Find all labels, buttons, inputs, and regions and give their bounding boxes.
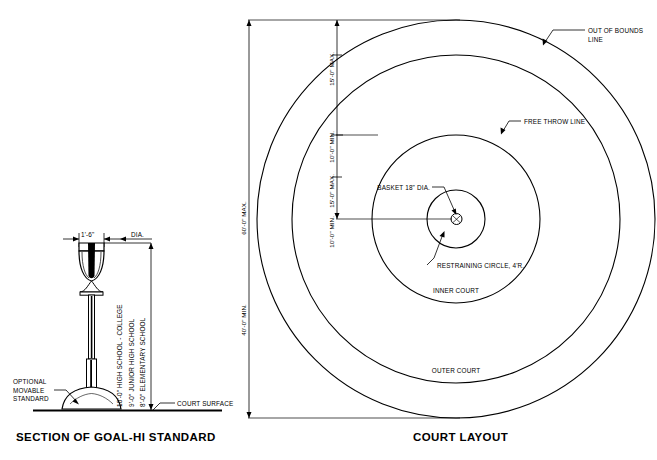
- court-extension-lines: [248, 20, 460, 418]
- free-throw-label: FREE THROW LINE: [524, 118, 585, 125]
- section-caption: SECTION OF GOAL-HI STANDARD: [16, 431, 216, 443]
- inner-court-label: INNER COURT: [433, 287, 479, 294]
- free-throw-leader: [503, 121, 521, 131]
- court-layout-plan: 60'-0" MAX. 40'-0" MIN. 15'-0" MAX. 10'-…: [240, 20, 655, 418]
- outer-court-label: OUTER COURT: [432, 367, 480, 374]
- radial-dim-4: 10'-0" MIN.: [328, 216, 335, 248]
- basket-center-mark: [453, 216, 460, 223]
- optional-standard-line3: STANDARD: [13, 395, 49, 402]
- radial-dim-2: 10'-0" MIN.: [328, 131, 335, 163]
- goal-width-dia-note: DIA.: [131, 231, 144, 238]
- court-surface-label: COURT SURFACE: [177, 400, 233, 407]
- goal-height-label-elementary: 8'-0" ELEMENTARY SCHOOL: [139, 317, 146, 407]
- basket-label: BASKET 18" DIA.: [377, 184, 430, 191]
- out-of-bounds-label-line1: OUT OF BOUNDS: [588, 27, 643, 34]
- goal-height-label-hs-college: 10'-0" HIGH SCHOOL - COLLEGE: [116, 304, 123, 407]
- goal-collar: [80, 281, 103, 295]
- overall-dim-60-max: 60'-0" MAX.: [240, 201, 247, 235]
- technical-drawing-canvas: 1'-6" DIA.: [0, 0, 657, 460]
- goal-cup-shading: [88, 243, 95, 278]
- radial-dim-1: 15'-0" MAX.: [328, 52, 335, 86]
- restraining-circle-arrowhead: [440, 231, 445, 238]
- out-of-bounds-leader: [545, 30, 585, 42]
- overall-dim-40-min: 40'-0" MIN.: [240, 304, 247, 336]
- out-of-bounds-label-line2: LINE: [588, 36, 603, 43]
- optional-standard-line2: MOVABLE: [13, 387, 44, 394]
- optional-standard-line1: OPTIONAL: [13, 378, 47, 385]
- goal-standard-section: 1'-6" DIA.: [13, 231, 233, 411]
- radial-dim-3: 15'-0" MAX.: [328, 174, 335, 208]
- restraining-circle-label: RESTRAINING CIRCLE, 4'R.: [437, 262, 524, 269]
- goal-height-label-jr-high: 9'-0" JUNIOR HIGH SCHOOL: [128, 318, 135, 407]
- goal-movable-base: [62, 387, 121, 409]
- goal-width-value: 1'-6": [81, 231, 94, 238]
- court-layout-caption: COURT LAYOUT: [413, 431, 508, 443]
